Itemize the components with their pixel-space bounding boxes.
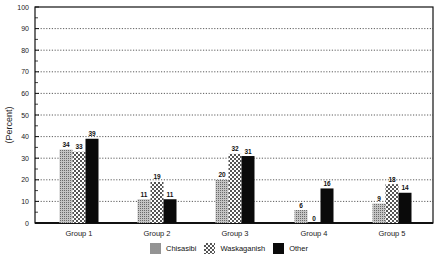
bar-other (321, 188, 334, 223)
bar-chart: 0102030405060708090100 34333911191120323… (0, 0, 442, 262)
value-label: 9 (377, 195, 381, 202)
bar-waskaganish (73, 152, 86, 223)
waskaganish-swatch-icon (204, 243, 215, 254)
y-tick-label: 10 (21, 198, 29, 205)
bar-chisasibi (60, 150, 73, 223)
legend-item-other: Other (273, 243, 308, 254)
y-tick-label: 60 (21, 90, 29, 97)
bar-other (399, 193, 412, 223)
bar-chisasibi (216, 180, 229, 223)
category-label: Group 1 (65, 229, 92, 238)
legend-item-chisasibi: Chisasibi (150, 243, 196, 254)
value-label: 14 (401, 184, 409, 191)
value-label: 39 (88, 130, 96, 137)
category-label: Group 5 (378, 229, 405, 238)
value-label: 32 (231, 145, 239, 152)
y-tick-label: 100 (17, 4, 29, 11)
x-axis: Group 1Group 2Group 3Group 4Group 5 (65, 229, 405, 238)
bar-other (86, 139, 99, 223)
bar-chisasibi (138, 199, 151, 223)
legend-label: Chisasibi (166, 244, 196, 253)
value-label: 19 (153, 173, 161, 180)
value-label: 31 (244, 148, 252, 155)
value-label: 34 (62, 141, 70, 148)
bar-chisasibi (373, 204, 386, 223)
y-tick-label: 0 (25, 220, 29, 227)
bar-other (164, 199, 177, 223)
category-label: Group 4 (300, 229, 327, 238)
y-tick-label: 70 (21, 68, 29, 75)
value-label: 16 (323, 180, 331, 187)
y-tick-label: 90 (21, 25, 29, 32)
chisasibi-swatch-icon (150, 243, 161, 254)
legend: Chisasibi Waskaganish Other (150, 243, 308, 254)
value-label: 20 (218, 171, 226, 178)
y-tick-label: 50 (21, 112, 29, 119)
legend-label: Waskaganish (220, 244, 265, 253)
value-label: 0 (312, 215, 316, 222)
value-label: 18 (388, 176, 396, 183)
other-swatch-icon (273, 243, 284, 254)
bar-waskaganish (386, 184, 399, 223)
bar-other (242, 156, 255, 223)
value-label: 33 (75, 143, 83, 150)
y-tick-label: 30 (21, 155, 29, 162)
legend-item-waskaganish: Waskaganish (204, 243, 265, 254)
category-label: Group 3 (221, 229, 248, 238)
category-label: Group 2 (143, 229, 170, 238)
y-tick-label: 80 (21, 47, 29, 54)
bar-waskaganish (229, 154, 242, 223)
value-label: 6 (299, 202, 303, 209)
y-tick-label: 20 (21, 176, 29, 183)
bar-waskaganish (151, 182, 164, 223)
legend-label: Other (289, 244, 308, 253)
bar-chisasibi (295, 210, 308, 223)
y-axis-label: (Percent) (4, 106, 14, 143)
y-tick-label: 40 (21, 133, 29, 140)
value-label: 11 (141, 191, 148, 198)
bars: 343339111911203231601691814 (60, 130, 412, 223)
value-label: 11 (167, 191, 174, 198)
